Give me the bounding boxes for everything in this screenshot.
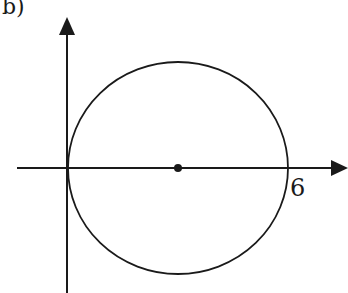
diagram-canvas: b) 6 (0, 0, 348, 293)
x-tick-label-6: 6 (290, 174, 305, 202)
coordinate-diagram: b) 6 (0, 0, 348, 293)
center-point (174, 164, 182, 172)
y-axis-arrow-icon (59, 17, 75, 35)
x-axis-arrow-icon (331, 160, 348, 176)
part-label: b) (2, 0, 25, 19)
